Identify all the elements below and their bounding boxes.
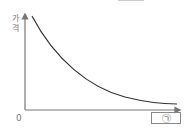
y-axis-label: 가 격 <box>9 14 21 34</box>
y-label-top: 가 <box>9 14 21 24</box>
y-label-bottom: 격 <box>9 24 21 34</box>
annotation-label: ㉠ <box>162 112 171 125</box>
price-curve <box>32 16 177 104</box>
origin-label: 0 <box>16 113 22 123</box>
annotation-box: ㉠ <box>151 112 181 124</box>
